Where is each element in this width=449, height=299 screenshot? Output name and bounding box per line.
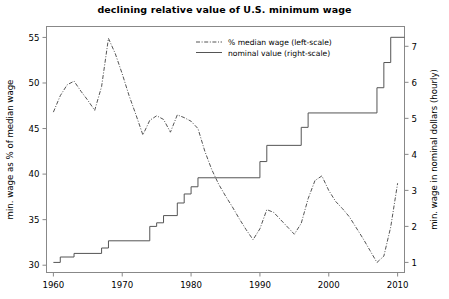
legend-label-nominal-value: nominal value (right-scale)	[228, 49, 330, 58]
x-tick-label: 2000	[318, 280, 340, 290]
y-tick-label-right: 3	[412, 186, 417, 196]
chart-plot-area: 1960197019801990200020103035404550551234…	[0, 0, 449, 299]
plot-frame	[47, 27, 405, 273]
x-tick-label: 1970	[111, 280, 133, 290]
y-tick-label-right: 1	[412, 258, 417, 268]
series-nominal-value-line	[53, 37, 404, 262]
y-tick-label-left: 30	[29, 260, 40, 270]
x-tick-label: 1980	[180, 280, 202, 290]
y-tick-label-right: 2	[412, 222, 417, 232]
y-tick-label-left: 50	[29, 78, 40, 88]
chart-figure: declining relative value of U.S. minimum…	[0, 0, 449, 299]
y-tick-label-right: 4	[412, 150, 417, 160]
x-tick-label: 1990	[249, 280, 271, 290]
y-tick-label-left: 40	[29, 169, 40, 179]
y-tick-label-left: 35	[29, 215, 40, 225]
y-tick-label-left: 55	[29, 33, 40, 43]
series-median-wage-line	[53, 38, 397, 262]
y-tick-label-right: 6	[412, 78, 417, 88]
y-tick-label-right: 5	[412, 114, 417, 124]
y-axis-title-left: min. wage as % of median wage	[5, 80, 15, 220]
y-tick-label-right: 7	[412, 42, 417, 52]
x-tick-label: 2010	[387, 280, 409, 290]
legend-label-median-wage: % median wage (left-scale)	[228, 38, 332, 47]
x-tick-label: 1960	[42, 280, 64, 290]
y-axis-title-right: min. wage in nominal dollars (hourly)	[429, 69, 439, 230]
y-tick-label-left: 45	[29, 124, 40, 134]
